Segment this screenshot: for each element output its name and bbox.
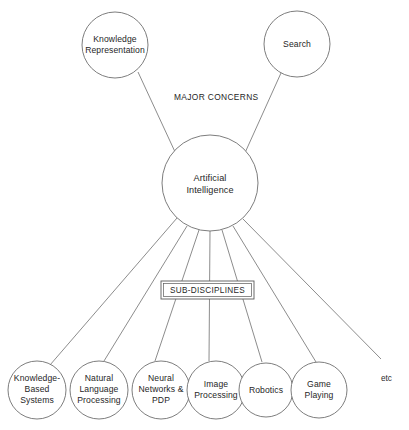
major-concerns-caption: MAJOR CONCERNS [174,92,258,102]
diagram-canvas: Knowledge Representation Search MAJOR CO… [0,0,409,430]
node-image-processing[interactable] [187,361,245,419]
node-knowledge-based-systems[interactable] [8,361,66,419]
sub-disciplines-caption: SUB-DISCIPLINES [161,286,254,295]
sub-discipline-nodes [8,361,347,419]
node-search[interactable] [264,11,330,77]
node-natural-language-processing[interactable] [70,361,128,419]
node-game-playing[interactable] [291,362,347,418]
link-ai-to-knowledge-representation [138,72,176,154]
node-neural-networks-pdp[interactable] [132,361,190,419]
major-concern-nodes [82,11,330,78]
link-ai-to-knowledge-based-systems [50,218,177,365]
etc-label: etc [381,374,392,383]
node-robotics[interactable] [239,363,293,417]
node-knowledge-representation[interactable] [82,12,148,78]
diagram-svg [0,0,409,430]
node-artificial-intelligence[interactable] [162,135,258,231]
link-ai-to-search [244,73,281,155]
link-ai-to-etc [243,219,381,359]
